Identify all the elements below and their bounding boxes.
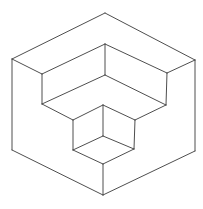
edge-outer_top-to-outer_left_top: [12, 13, 105, 59]
edge-outer_left_bottom-to-outer_bottom: [12, 150, 103, 195]
stepped-cube-drawing: [0, 0, 203, 209]
edge-inner_left_bottom-to-step_corner: [42, 75, 105, 104]
edge-small_left_bottom-to-small_bottom: [73, 150, 103, 164]
edge-inner_left_bottom-to-small_left_top: [42, 104, 73, 120]
edge-inner_right_top-to-inner_right_bottom: [166, 73, 167, 105]
edge-inner_right_bottom-to-small_right_top: [135, 105, 166, 120]
edge-small_center-to-small_right_bottom: [103, 136, 134, 149]
edge-outer_right_top-to-inner_right_top: [167, 60, 195, 73]
edge-small_right_top-to-small_right_bottom: [134, 120, 135, 149]
edge-step_corner-to-inner_right_bottom: [105, 75, 166, 105]
edge-small_left_top-to-small_top: [73, 105, 103, 120]
edge-inner_top-to-inner_right_top: [105, 44, 167, 73]
edge-small_left_bottom-to-small_center: [73, 136, 103, 150]
isometric-stepped-cube-diagram: [0, 0, 203, 209]
edge-outer_top-to-outer_right_top: [105, 13, 195, 60]
edge-outer_left_top-to-inner_left_top: [12, 59, 42, 74]
edge-inner_left_top-to-inner_top: [42, 44, 105, 74]
edge-small_top-to-small_right_top: [103, 105, 135, 120]
edge-small_right_bottom-to-small_bottom: [103, 149, 134, 164]
cube-edges: [12, 13, 195, 195]
